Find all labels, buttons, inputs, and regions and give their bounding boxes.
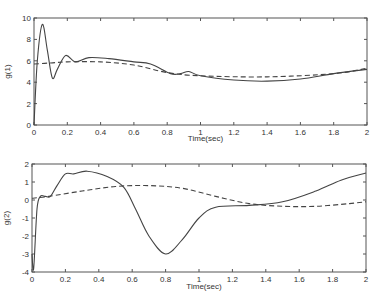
x-tick-label: 1.2 xyxy=(228,128,240,137)
y-tick-label: -1 xyxy=(22,214,30,223)
plot-g1: 00.20.40.60.811.21.41.61.820246810Time(s… xyxy=(3,14,370,143)
series-dashed-line xyxy=(34,62,367,77)
y-axis-label: g(2) xyxy=(2,211,11,226)
x-tick-label: 0 xyxy=(30,275,35,284)
x-tick-label: 2 xyxy=(365,128,370,137)
y-tick-label: 10 xyxy=(22,14,31,23)
y-tick-label: 4 xyxy=(27,78,32,87)
y-tick-label: 2 xyxy=(25,160,30,169)
x-tick-label: 1.6 xyxy=(295,128,307,137)
x-tick-label: 2 xyxy=(364,275,369,284)
chart-canvas: 00.20.40.60.811.21.41.61.820246810Time(s… xyxy=(0,0,382,304)
x-tick-label: 0.6 xyxy=(127,275,139,284)
x-tick-label: 1.8 xyxy=(328,128,340,137)
x-tick-label: 0 xyxy=(32,128,37,137)
x-tick-label: 0.8 xyxy=(162,128,174,137)
x-tick-label: 1.8 xyxy=(327,275,339,284)
y-tick-label: -2 xyxy=(22,232,30,241)
series-dashed-line xyxy=(32,185,366,206)
x-tick-label: 1.4 xyxy=(262,128,274,137)
x-tick-label: 0.6 xyxy=(128,128,140,137)
x-axis-label: Time(sec) xyxy=(188,134,224,143)
y-tick-label: -3 xyxy=(22,250,30,259)
plot-g2: 00.20.40.60.811.21.41.61.82-4-3-2-1012Ti… xyxy=(2,160,369,291)
x-tick-label: 1.2 xyxy=(227,275,239,284)
x-tick-label: 0.2 xyxy=(60,275,72,284)
x-tick-label: 0.4 xyxy=(95,128,107,137)
y-tick-label: 0 xyxy=(25,196,30,205)
y-tick-label: 2 xyxy=(27,100,32,109)
y-tick-label: -4 xyxy=(22,268,30,277)
x-tick-label: 0.2 xyxy=(62,128,74,137)
x-axis-label: Time(sec) xyxy=(186,282,222,291)
x-tick-label: 1.6 xyxy=(294,275,306,284)
y-tick-label: 0 xyxy=(27,121,32,130)
y-axis-label: g(1) xyxy=(3,64,12,79)
x-tick-label: 1.4 xyxy=(260,275,272,284)
axes-frame xyxy=(34,18,367,125)
y-tick-label: 6 xyxy=(27,57,32,66)
x-tick-label: 0.8 xyxy=(160,275,172,284)
y-tick-label: 8 xyxy=(27,35,32,44)
x-tick-label: 0.4 xyxy=(93,275,105,284)
series-solid-line xyxy=(32,171,366,270)
y-tick-label: 1 xyxy=(25,178,30,187)
